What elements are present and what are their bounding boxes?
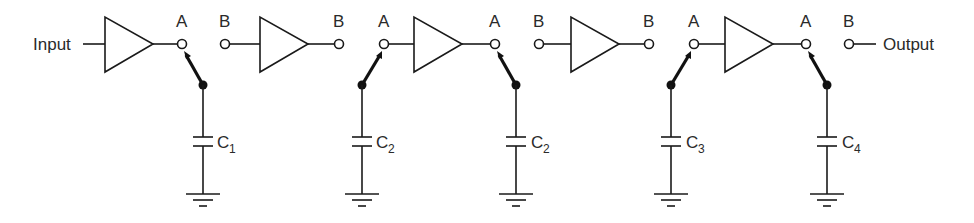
node-a-1	[178, 40, 187, 49]
switch-arm-c1	[186, 55, 203, 85]
node-b-label: B	[333, 12, 344, 31]
circuit-diagram: Input A C 1 B B A C 2 A	[0, 0, 974, 223]
switch-arrow-icon	[497, 51, 504, 59]
amplifier-5	[725, 17, 773, 72]
node-a-label: A	[489, 12, 501, 31]
switch-arm-c2-left	[362, 55, 380, 85]
node-b-1	[221, 40, 230, 49]
ground-icon	[345, 194, 379, 206]
capacitor-subscript: 3	[698, 142, 705, 156]
amplifier-2	[260, 17, 308, 72]
amplifier-4	[571, 17, 619, 72]
switch-arrow-icon	[808, 51, 815, 59]
node-b-2	[335, 40, 344, 49]
node-b-label: B	[643, 12, 654, 31]
capacitor-label-c2: C	[531, 133, 543, 152]
node-b-output	[845, 40, 854, 49]
node-b-label: B	[843, 12, 854, 31]
capacitor-label-c1: C	[217, 133, 229, 152]
node-a-4	[690, 40, 699, 49]
capacitor-subscript: 2	[388, 142, 395, 156]
output-label: Output	[883, 35, 934, 54]
node-b-label: B	[533, 12, 544, 31]
capacitor-label-c2: C	[376, 133, 388, 152]
node-a-label: A	[378, 12, 390, 31]
capacitor-subscript: 4	[854, 142, 861, 156]
ground-icon	[186, 194, 220, 206]
ground-icon	[499, 194, 533, 206]
input-label: Input	[33, 35, 71, 54]
ground-icon	[810, 194, 844, 206]
switch-arm-c3	[671, 55, 689, 85]
node-a-3	[491, 40, 500, 49]
switch-arm-c2-right	[499, 55, 516, 85]
node-b-3	[535, 40, 544, 49]
node-b-4	[645, 40, 654, 49]
switch-arrow-icon	[184, 51, 191, 59]
node-a-label: A	[800, 12, 812, 31]
capacitor-subscript: 2	[543, 142, 550, 156]
capacitor-subscript: 1	[229, 142, 236, 156]
ground-icon	[654, 194, 688, 206]
node-b-label: B	[219, 12, 230, 31]
node-a-label: A	[176, 12, 188, 31]
capacitor-label-c4: C	[842, 133, 854, 152]
capacitor-label-c3: C	[686, 133, 698, 152]
amplifier-1	[105, 17, 153, 72]
switch-arm-c4	[810, 55, 827, 85]
amplifier-3	[414, 17, 462, 72]
node-a-label: A	[688, 12, 700, 31]
node-a-5	[802, 40, 811, 49]
node-a-2	[380, 40, 389, 49]
